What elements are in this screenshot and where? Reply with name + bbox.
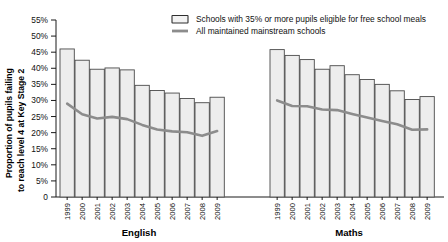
x-axis-year-label: 2003 (123, 203, 132, 220)
bar (375, 84, 389, 197)
y-axis-ticks: 05%10%15%20%25%30%35%40%45%50%55% (31, 15, 56, 202)
bar (360, 80, 374, 197)
y-tick-label: 55% (31, 15, 48, 25)
bar-group-english (60, 49, 224, 197)
y-tick-label: 40% (31, 63, 48, 73)
y-tick-label: 0 (43, 192, 48, 202)
x-axis-year-label: 1999 (63, 203, 72, 220)
bar (105, 68, 119, 197)
x-axis-year-label: 2009 (423, 203, 432, 220)
legend: Schools with 35% or more pupils eligible… (172, 14, 426, 36)
y-tick-label: 5% (36, 176, 49, 186)
bar (285, 55, 299, 197)
bar (420, 97, 434, 197)
bar (390, 91, 404, 197)
bar (195, 103, 209, 197)
group-label-maths: Maths (335, 227, 363, 238)
x-axis-year-label: 2006 (168, 203, 177, 220)
x-axis-year-label: 2004 (138, 203, 147, 220)
bar (150, 90, 164, 197)
x-axis-year-label: 2006 (378, 203, 387, 220)
y-tick-label: 45% (31, 47, 48, 57)
x-axis-year-label: 2008 (198, 203, 207, 220)
x-axis-year-label: 2009 (213, 203, 222, 220)
x-axis-year-labels-maths: 1999200020012002200320042005200620072008… (273, 197, 432, 220)
x-axis-year-label: 2004 (348, 203, 357, 220)
bar (135, 85, 149, 197)
x-axis-year-label: 2005 (363, 203, 372, 220)
x-axis-year-label: 2001 (93, 203, 102, 220)
bar (345, 75, 359, 197)
x-axis-year-label: 2007 (183, 203, 192, 220)
y-tick-label: 30% (31, 95, 48, 105)
x-axis-year-label: 2002 (318, 203, 327, 220)
x-axis-year-label: 2008 (408, 203, 417, 220)
x-axis-year-label: 2005 (153, 203, 162, 220)
bar (120, 70, 134, 197)
bar (330, 66, 344, 197)
x-axis-year-label: 2001 (303, 203, 312, 220)
y-axis-title: Proportion of pupils failing to reach le… (4, 68, 26, 192)
y-axis-title-line2: to reach level 4 at Key Stage 2 (16, 69, 26, 192)
bar (270, 50, 284, 197)
x-axis-year-labels-english: 1999200020012002200320042005200620072008… (63, 197, 222, 220)
bar (165, 93, 179, 197)
y-tick-label: 20% (31, 128, 48, 138)
x-axis-year-label: 2003 (333, 203, 342, 220)
bar (180, 99, 194, 197)
bar (300, 60, 314, 197)
bar (90, 69, 104, 197)
bar (75, 60, 89, 197)
y-tick-label: 10% (31, 160, 48, 170)
bar (315, 69, 329, 197)
legend-swatch-bar-icon (172, 16, 188, 24)
group-label-english: English (122, 227, 157, 238)
y-axis-title-line1: Proportion of pupils failing (4, 68, 14, 178)
bar (405, 99, 419, 197)
bar-group-maths (270, 50, 434, 197)
legend-label-fsm-schools: Schools with 35% or more pupils eligible… (196, 14, 426, 24)
x-axis-year-label: 1999 (273, 203, 282, 220)
bar (210, 97, 224, 197)
y-tick-label: 15% (31, 144, 48, 154)
bar-line-chart: Proportion of pupils failing to reach le… (0, 0, 448, 242)
legend-label-all-schools: All maintained mainstream schools (196, 26, 325, 36)
chart-container: Proportion of pupils failing to reach le… (0, 0, 448, 242)
y-tick-label: 25% (31, 112, 48, 122)
y-tick-label: 50% (31, 31, 48, 41)
x-axis-year-label: 2002 (108, 203, 117, 220)
x-axis-year-label: 2000 (78, 203, 87, 220)
y-tick-label: 35% (31, 79, 48, 89)
bar (60, 49, 74, 197)
x-axis-year-label: 2007 (393, 203, 402, 220)
x-axis-year-label: 2000 (288, 203, 297, 220)
